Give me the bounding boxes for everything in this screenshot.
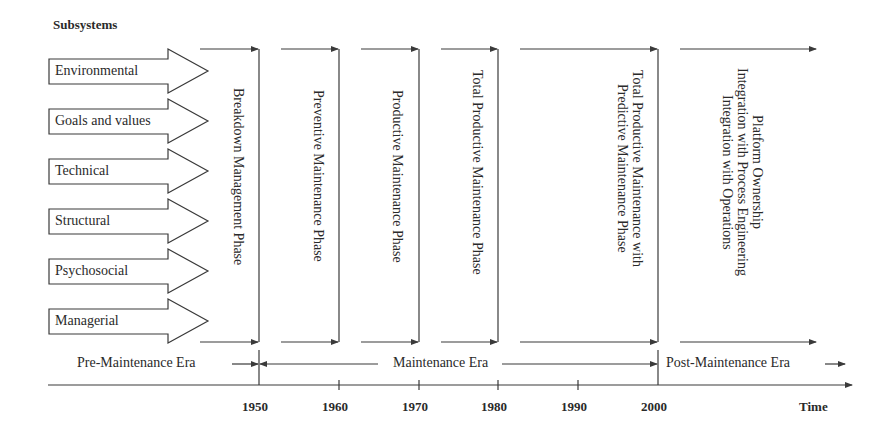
subsystem-block-arrows	[49, 49, 208, 343]
phase-label-productive: Productive Maintenance Phase	[390, 90, 405, 263]
subsystem-label: Goals and values	[55, 113, 151, 129]
axis-tick-label: 1960	[322, 399, 348, 415]
phase-line: Breakdown Management Phase	[231, 88, 246, 265]
phase-label-platform-ownership: Platform Ownership Integration with Proc…	[720, 68, 765, 276]
phase-line: Total Productive Maintenance with	[630, 70, 645, 267]
subsystem-label: Managerial	[55, 313, 119, 329]
phase-line: Integration with Process Engineering	[735, 68, 750, 276]
subsystem-label: Structural	[55, 213, 110, 229]
axis-tick-label: 1980	[481, 399, 507, 415]
axis-tick-label: 2000	[641, 399, 667, 415]
subsystem-label: Technical	[55, 163, 109, 179]
phase-label-tpm-predictive: Total Productive Maintenance with Predic…	[615, 70, 645, 267]
subsystem-label: Psychosocial	[55, 263, 128, 279]
axis-label-time: Time	[799, 399, 828, 415]
phase-label-preventive: Preventive Maintenance Phase	[311, 90, 326, 262]
phase-line: Integration with Operations	[720, 95, 735, 250]
phase-line: Preventive Maintenance Phase	[311, 90, 326, 262]
phase-label-breakdown: Breakdown Management Phase	[231, 88, 246, 265]
era-pre-maintenance: Pre-Maintenance Era	[77, 355, 196, 371]
axis-tick-label: 1950	[242, 399, 268, 415]
era-maintenance: Maintenance Era	[393, 355, 488, 371]
phase-label-tpm: Total Productive Maintenance Phase	[470, 70, 485, 275]
axis-tick-label: 1990	[561, 399, 587, 415]
subsystem-label: Environmental	[55, 63, 138, 79]
phase-line: Productive Maintenance Phase	[390, 90, 405, 263]
phase-line: Total Productive Maintenance Phase	[470, 70, 485, 275]
era-post-maintenance: Post-Maintenance Era	[666, 355, 790, 371]
time-axis	[48, 380, 852, 390]
phase-line: Platform Ownership	[750, 115, 765, 229]
subsystems-title: Subsystems	[53, 17, 117, 33]
axis-tick-label: 1970	[402, 399, 428, 415]
phase-line: Predictive Maintenance Phase	[615, 84, 630, 253]
